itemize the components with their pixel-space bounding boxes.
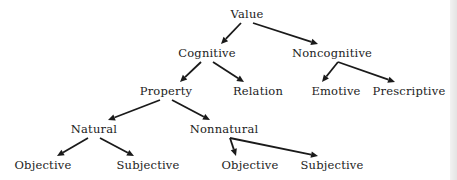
node-label-emotive: Emotive: [311, 84, 360, 98]
arrowhead-icon: [387, 77, 395, 83]
edge-property-to-nonnatural: [172, 100, 210, 120]
edge-line: [213, 62, 238, 78]
edge-nonnatural-to-nonnatural-subjective: [230, 138, 318, 158]
edge-noncognitive-to-emotive: [322, 62, 338, 82]
edge-line: [326, 62, 338, 77]
edge-line: [226, 23, 241, 39]
node-label-nonnatural: Nonnatural: [190, 122, 259, 136]
edge-property-to-natural: [108, 100, 160, 120]
arrowhead-icon: [310, 39, 318, 45]
node-label-property: Property: [140, 84, 193, 98]
edge-line: [115, 100, 160, 117]
edge-line: [63, 138, 88, 152]
node-label-value: Value: [230, 7, 264, 21]
node-label-natural-subjective: Subjective: [116, 158, 179, 172]
node-label-natural-objective: Objective: [14, 158, 71, 172]
node-label-nonnatural-objective: Objective: [221, 158, 278, 172]
edge-line: [230, 138, 234, 149]
value-taxonomy-diagram: ValueCognitiveNoncognitivePropertyRelati…: [0, 0, 457, 180]
edge-line: [253, 23, 311, 42]
edge-line: [172, 100, 204, 117]
node-label-relation: Relation: [233, 84, 284, 98]
arrowhead-icon: [311, 151, 318, 157]
node-label-natural: Natural: [71, 122, 118, 136]
node-label-prescriptive: Prescriptive: [373, 84, 446, 98]
edge-line: [338, 62, 388, 80]
node-label-nonnatural-subjective: Subjective: [300, 158, 363, 172]
edge-value-to-noncognitive: [253, 23, 318, 45]
edge-nonnatural-to-nonnatural-objective: [230, 138, 237, 156]
edge-natural-to-natural-subjective: [100, 138, 134, 156]
node-label-noncognitive: Noncognitive: [292, 46, 372, 60]
page-edge-strip: [450, 0, 457, 180]
edge-line: [100, 138, 128, 153]
arrowhead-icon: [231, 148, 237, 156]
arrowhead-icon: [108, 115, 116, 121]
edge-line: [230, 138, 311, 155]
edge-line: [185, 62, 201, 77]
edge-natural-to-natural-objective: [57, 138, 88, 156]
edge-cognitive-to-property: [180, 62, 201, 82]
edge-value-to-cognitive: [221, 23, 241, 44]
tree-svg: ValueCognitiveNoncognitivePropertyRelati…: [0, 0, 457, 180]
labels-group: ValueCognitiveNoncognitivePropertyRelati…: [14, 7, 445, 172]
edge-noncognitive-to-prescriptive: [338, 62, 395, 83]
edge-cognitive-to-relation: [213, 62, 244, 82]
node-label-cognitive: Cognitive: [178, 46, 236, 60]
